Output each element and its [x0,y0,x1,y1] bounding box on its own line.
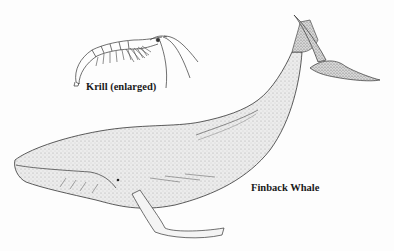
krill-label: Krill (enlarged) [86,81,156,92]
illustration-canvas: Krill (enlarged) Finback Whale [0,0,394,251]
whale-label: Finback Whale [251,182,319,193]
whale-drawing [15,15,380,238]
whale-krill-drawing [0,0,394,251]
